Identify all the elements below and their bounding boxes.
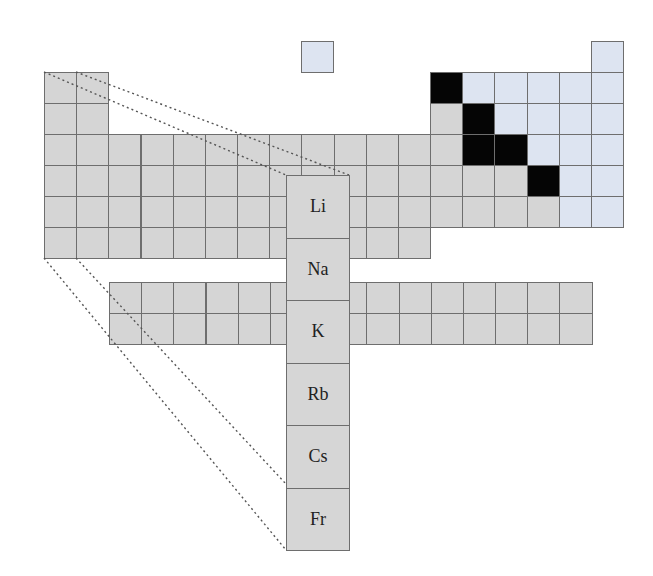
element-li: Li [286,175,350,239]
cell-p3-g16 [527,103,560,135]
cell-p5-g3 [108,165,141,197]
cell-p6-g17 [559,196,592,228]
cell-fblock-r2-c1 [109,313,142,345]
element-fr: Fr [286,488,350,552]
cell-p6-g2 [76,196,109,228]
cell-p4-g9 [301,134,334,166]
cell-p3-g18 [591,103,624,135]
cell-p5-g12 [398,165,431,197]
cell-p7-g3 [108,227,141,259]
cell-p6-g7 [237,196,270,228]
cell-fblock-r2-c10 [399,313,432,345]
cell-p5-g4 [141,165,174,197]
cell-fblock-r2-c4 [206,313,239,345]
cell-p6-g18 [591,196,624,228]
cell-p5-g13 [430,165,463,197]
cell-p6-g6 [205,196,238,228]
cell-p2-g15 [494,72,527,104]
cell-p7-g2 [76,227,109,259]
cell-fblock-r1-c9 [366,282,399,314]
cell-fblock-r2-c15 [559,313,592,345]
cell-p4-g1 [44,134,77,166]
element-na: Na [286,238,350,302]
cell-fblock-r1-c4 [206,282,239,314]
cell-p3-g14 [462,103,495,135]
cell-p6-g14 [462,196,495,228]
cell-fblock-r2-c3 [173,313,206,345]
cell-fblock-r1-c1 [109,282,142,314]
cell-p3-g13 [430,103,463,135]
cell-helium [591,41,624,73]
cell-p5-g15 [494,165,527,197]
cell-p4-g12 [398,134,431,166]
cell-p5-g5 [173,165,206,197]
element-cs: Cs [286,425,350,489]
cell-p4-g5 [173,134,206,166]
cell-p6-g13 [430,196,463,228]
periodic-table-diagram: Li Na K Rb Cs Fr [0,0,653,576]
cell-p4-g3 [108,134,141,166]
cell-p4-g15 [494,134,527,166]
cell-p7-g11 [366,227,399,259]
cell-p6-g3 [108,196,141,228]
cell-fblock-r2-c2 [141,313,174,345]
cell-p4-g8 [269,134,302,166]
element-rb: Rb [286,363,350,427]
cell-p7-g4 [141,227,174,259]
cell-p6-g4 [141,196,174,228]
cell-fblock-r2-c5 [238,313,271,345]
cell-p6-g5 [173,196,206,228]
cell-fblock-r1-c12 [463,282,496,314]
cell-p4-g16 [527,134,560,166]
cell-p4-g2 [76,134,109,166]
cell-fblock-r2-c14 [527,313,560,345]
cell-p6-g11 [366,196,399,228]
cell-p5-g7 [237,165,270,197]
cell-p6-g15 [494,196,527,228]
cell-p7-g1 [44,227,77,259]
cell-fblock-r1-c13 [495,282,528,314]
cell-p3-g17 [559,103,592,135]
cell-p3-g15 [494,103,527,135]
cell-p2-g16 [527,72,560,104]
cell-p6-g16 [527,196,560,228]
cell-p4-g11 [366,134,399,166]
cell-p6-g1 [44,196,77,228]
cell-p5-g6 [205,165,238,197]
cell-fblock-r1-c3 [173,282,206,314]
cell-p4-g7 [237,134,270,166]
cell-fblock-r1-c14 [527,282,560,314]
cell-p4-g18 [591,134,624,166]
cell-p4-g14 [462,134,495,166]
cell-fblock-r2-c11 [431,313,464,345]
cell-fblock-r1-c10 [399,282,432,314]
element-k: K [286,300,350,364]
cell-fblock-r1-c2 [141,282,174,314]
cell-fblock-r1-c5 [238,282,271,314]
cell-p5-g18 [591,165,624,197]
cell-p4-g17 [559,134,592,166]
cell-p3-g2 [76,103,109,135]
cell-fblock-r1-c15 [559,282,592,314]
cell-p7-g7 [237,227,270,259]
cell-p4-g10 [334,134,367,166]
cell-p4-g4 [141,134,174,166]
cell-p2-g14 [462,72,495,104]
cell-fblock-r1-c11 [431,282,464,314]
cell-fblock-r2-c12 [463,313,496,345]
cell-hydrogen [301,41,334,73]
cell-p5-g2 [76,165,109,197]
cell-p5-g16 [527,165,560,197]
cell-p5-g1 [44,165,77,197]
cell-p5-g11 [366,165,399,197]
cell-fblock-r2-c13 [495,313,528,345]
cell-p2-g2 [76,72,109,104]
cell-fblock-r2-c9 [366,313,399,345]
cell-p4-g6 [205,134,238,166]
cell-p4-g13 [430,134,463,166]
cell-p5-g17 [559,165,592,197]
cell-p7-g6 [205,227,238,259]
cell-p2-g18 [591,72,624,104]
cell-p5-g14 [462,165,495,197]
cell-p2-g1 [44,72,77,104]
